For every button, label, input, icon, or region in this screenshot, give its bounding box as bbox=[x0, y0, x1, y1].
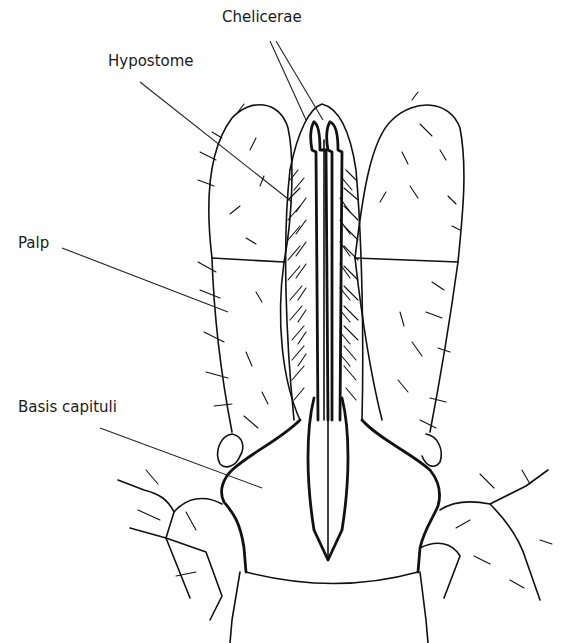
chelicerae bbox=[311, 122, 342, 420]
anatomy-drawing bbox=[0, 0, 567, 643]
right-palp bbox=[355, 92, 464, 432]
label-hypostome: Hypostome bbox=[108, 52, 194, 70]
left-palp bbox=[198, 104, 300, 432]
chelicerae-leader-2 bbox=[276, 41, 323, 120]
tick-mouthparts-diagram: Chelicerae Hypostome Palp Basis capituli bbox=[0, 0, 567, 643]
basis-capituli bbox=[218, 398, 442, 583]
label-palp: Palp bbox=[18, 234, 49, 252]
label-chelicerae: Chelicerae bbox=[222, 8, 302, 26]
label-basis-capituli: Basis capituli bbox=[18, 398, 117, 416]
chelicerae-leader-1 bbox=[270, 41, 306, 120]
palp-leader bbox=[62, 248, 228, 312]
legs-and-body bbox=[118, 470, 552, 643]
hypostome-leader bbox=[140, 82, 292, 202]
